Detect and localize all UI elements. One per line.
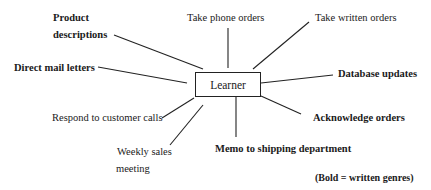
edge-weekly-sales-meeting [170,105,203,145]
edge-product-descriptions [114,35,203,69]
node-label: Direct mail letters [14,62,95,73]
node-label-line: descriptions [53,27,107,42]
node-label-line: Product [53,10,107,25]
node-database-updates: Database updates [338,66,417,81]
node-acknowledge-orders: Acknowledge orders [313,110,405,125]
node-label: Take phone orders [187,12,264,23]
node-product-descriptions: Product descriptions [53,10,107,42]
edge-database-updates [261,75,333,83]
edge-take-written-orders [253,22,309,69]
node-label-line: meeting [116,161,172,176]
node-label: Respond to customer calls [52,112,163,123]
node-label: Database updates [338,68,417,79]
node-respond-to-customer-calls: Respond to customer calls [52,110,163,125]
legend-text: (Bold = written genres) [315,172,414,183]
node-label: Acknowledge orders [313,112,405,123]
center-node-learner: Learner [195,72,261,97]
node-memo-to-shipping-department: Memo to shipping department [215,141,351,156]
node-direct-mail-letters: Direct mail letters [14,60,95,75]
edge-acknowledge-orders [261,96,301,114]
node-label: Take written orders [315,12,396,23]
node-take-phone-orders: Take phone orders [187,10,264,25]
center-node-label: Learner [210,79,246,91]
node-label: Memo to shipping department [215,143,351,154]
node-label-line: Weekly sales [117,144,172,159]
edge-respond-to-customer-calls [162,98,194,118]
node-take-written-orders: Take written orders [315,10,396,25]
legend-note: (Bold = written genres) [315,170,414,185]
node-weekly-sales-meeting: Weekly sales meeting [117,144,172,176]
edge-direct-mail-letters [98,67,187,83]
